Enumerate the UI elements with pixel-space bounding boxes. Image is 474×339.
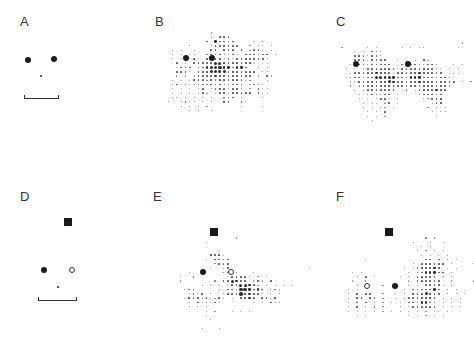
fixation-density-dot	[348, 306, 349, 307]
fixation-density-dot	[380, 55, 381, 56]
fixation-density-dot	[218, 254, 220, 256]
fixation-density-dot	[189, 71, 190, 72]
fixation-density-dot	[376, 94, 378, 96]
fixation-density-dot	[462, 42, 463, 43]
fixation-density-dot	[392, 76, 394, 78]
fixation-density-dot	[223, 263, 225, 265]
nose-marker	[40, 75, 42, 77]
fixation-density-dot	[354, 51, 355, 52]
fixation-density-dot	[181, 88, 182, 89]
fixation-density-dot	[232, 62, 234, 64]
fixation-density-dot	[427, 72, 429, 74]
fixation-density-dot	[211, 37, 212, 38]
fixation-density-dot	[180, 276, 181, 277]
fixation-density-dot	[236, 71, 238, 73]
fixation-density-dot	[219, 285, 220, 286]
fixation-density-dot	[224, 84, 225, 85]
fixation-density-dot	[241, 88, 242, 89]
fixation-density-dot	[206, 311, 207, 312]
fixation-density-dot	[210, 62, 212, 64]
panel-label-f: F	[336, 189, 344, 204]
fixation-density-dot	[412, 306, 414, 308]
fixation-density-dot	[451, 285, 452, 286]
fixation-density-dot	[419, 85, 421, 87]
fixation-density-dot	[363, 107, 364, 108]
fixation-density-dot	[253, 302, 254, 303]
fixation-density-dot	[456, 268, 457, 269]
fixation-density-dot	[470, 81, 471, 82]
fixation-density-dot	[258, 54, 260, 56]
fixation-density-dot	[245, 101, 246, 102]
square-marker	[210, 228, 218, 236]
fixation-density-dot	[206, 84, 207, 85]
fixation-density-dot	[185, 75, 186, 76]
fixation-density-dot	[363, 81, 365, 83]
fixation-density-dot	[214, 263, 215, 264]
fixation-density-dot	[429, 280, 431, 282]
fixation-density-dot	[369, 297, 371, 299]
fixation-density-dot	[189, 67, 191, 69]
fixation-density-dot	[434, 263, 436, 265]
fixation-density-dot	[367, 68, 369, 70]
fixation-density-dot	[384, 59, 386, 61]
fixation-density-dot	[436, 94, 438, 96]
fixation-density-dot	[389, 98, 390, 99]
fixation-density-dot	[432, 103, 433, 104]
fixation-density-dot	[262, 84, 263, 85]
fixation-density-dot	[348, 293, 349, 294]
fixation-density-dot	[211, 110, 212, 111]
fixation-density-dot	[354, 81, 355, 82]
fixation-density-dot	[431, 89, 433, 91]
fixation-density-dot	[419, 64, 421, 66]
fixation-density-dot	[219, 289, 220, 290]
fixation-density-dot	[401, 77, 403, 79]
fixation-density-dot	[206, 259, 207, 260]
fixation-density-dot	[408, 297, 410, 299]
fixation-density-dot	[421, 297, 423, 299]
fixation-density-dot	[262, 106, 263, 107]
fixation-density-dot	[172, 50, 173, 51]
fixation-density-dot	[384, 68, 386, 70]
fixation-density-dot	[236, 62, 238, 64]
fixation-density-dot	[223, 45, 225, 47]
fixation-density-dot	[223, 255, 224, 256]
fixation-density-dot	[210, 302, 211, 303]
fixation-density-dot	[262, 58, 264, 60]
fixation-density-dot	[397, 77, 399, 79]
fixation-density-dot	[231, 289, 233, 291]
fixation-density-dot	[433, 267, 435, 269]
fixation-density-dot	[412, 293, 414, 295]
fixation-density-dot	[228, 54, 230, 56]
fixation-density-dot	[453, 81, 455, 83]
fixation-density-dot	[388, 80, 391, 83]
fixation-density-dot	[254, 63, 255, 64]
fixation-density-dot	[253, 293, 255, 295]
fixation-density-dot	[275, 285, 276, 286]
fixation-density-dot	[427, 98, 428, 99]
fixation-density-dot	[214, 70, 217, 73]
fixation-density-dot	[440, 111, 441, 112]
fixation-density-dot	[421, 263, 423, 265]
fixation-density-dot	[227, 285, 228, 286]
nose-marker	[57, 286, 59, 288]
fixation-density-dot	[189, 45, 190, 46]
fixation-density-dot	[236, 79, 238, 81]
fixation-density-dot	[206, 306, 207, 307]
fixation-density-dot	[172, 54, 173, 55]
fixation-density-dot	[458, 47, 459, 48]
fixation-density-dot	[274, 289, 276, 291]
fixation-density-dot	[436, 72, 438, 74]
fixation-density-dot	[438, 293, 440, 295]
fixation-density-dot	[198, 88, 199, 89]
fixation-density-dot	[384, 94, 386, 96]
filled-circle-marker	[405, 61, 411, 67]
fixation-density-dot	[262, 54, 264, 56]
fixation-density-dot	[206, 58, 208, 60]
fixation-density-dot	[400, 311, 401, 312]
fixation-density-dot	[456, 293, 457, 294]
filled-circle-marker	[209, 55, 215, 61]
fixation-density-dot	[460, 302, 461, 303]
fixation-density-dot	[249, 58, 251, 60]
filled-circle-marker	[200, 269, 206, 275]
fixation-density-dot	[267, 93, 268, 94]
